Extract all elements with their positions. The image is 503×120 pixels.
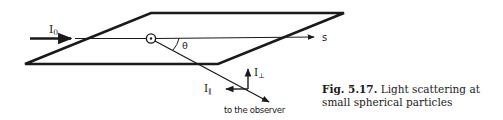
observer-label: to the observer (224, 105, 286, 115)
forward-direction-label: s (322, 32, 327, 43)
particle-center-dot (150, 37, 152, 39)
parallel-intensity-label: I∥ (204, 82, 211, 96)
figure-caption: Fig. 5.17. Light scattering at small sph… (322, 83, 502, 109)
perpendicular-intensity-label: I⊥ (254, 66, 265, 80)
incident-intensity-label: I0 (49, 23, 58, 37)
scattering-angle-arc (173, 39, 179, 51)
figure-number: Fig. 5.17. (322, 83, 377, 95)
forward-direction-arrow (156, 37, 314, 39)
scattering-angle-label: θ (182, 40, 188, 51)
